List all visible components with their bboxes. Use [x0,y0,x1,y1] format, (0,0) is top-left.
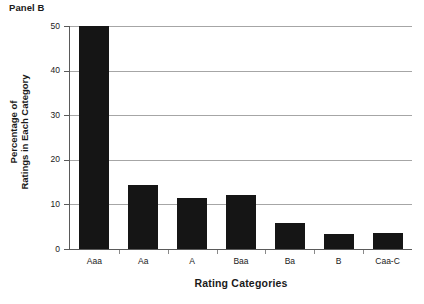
y-tick-label-10: 10 [20,200,60,209]
y-tick-20 [64,160,69,161]
x-tick [217,250,218,254]
bar-series [70,26,412,249]
y-tick-0 [64,249,69,250]
plot-area [70,26,412,249]
bar-slot [168,26,217,249]
y-tick-30 [64,115,69,116]
x-tick [119,250,120,254]
y-axis-title-line-2: Ratings in Each Category [19,74,31,189]
bar-slot [70,26,119,249]
y-tick-label-30: 30 [20,111,60,120]
bar-aaa [79,26,109,249]
bar-slot [119,26,168,249]
x-tick [265,250,266,254]
x-tick [363,250,364,254]
gridline-0 [70,249,412,250]
y-tick-50 [64,26,69,27]
panel-title: Panel B [9,2,45,13]
y-tick-label-20: 20 [20,155,60,164]
bar-aa [128,185,158,249]
bar-slot [217,26,266,249]
y-tick-40 [64,71,69,72]
bar-chart-figure: Panel B Percentage of Ratings in Each Ca… [0,0,424,304]
x-axis-title: Rating Categories [70,277,412,289]
bar-ba [275,223,305,249]
bar-slot [363,26,412,249]
y-tick-label-50: 50 [20,22,60,31]
y-tick-label-0: 0 [20,245,60,254]
y-tick-10 [64,204,69,205]
x-tick [314,250,315,254]
bar-a [177,198,207,249]
x-category-label-caa-c: Caa-C [358,256,418,266]
bar-caa-c [373,233,403,249]
y-tick-label-40: 40 [20,66,60,75]
bar-b [324,234,354,249]
bar-slot [314,26,363,249]
bar-slot [265,26,314,249]
bar-baa [226,195,256,249]
x-tick [168,250,169,254]
y-axis-title-line-1: Percentage of [8,101,20,164]
